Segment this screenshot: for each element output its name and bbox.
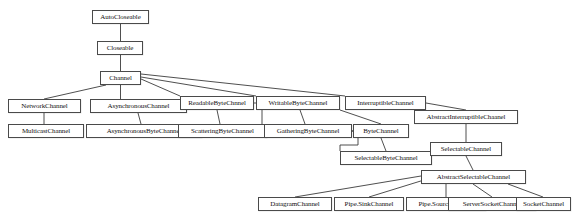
class-node-pipe_sink_channel[interactable]: Pipe.SinkChannel (334, 197, 404, 211)
class-node-label: InterruptibleChannel (357, 100, 413, 107)
edge-abstract_selectable_channel-to-server_socket_channel (473, 184, 492, 197)
class-node-abstract_interruptible[interactable]: AbstractInterruptibleChaanel (414, 110, 518, 124)
class-node-label: SocketChannel (523, 201, 564, 208)
class-node-socket_channel[interactable]: SocketChannel (516, 197, 571, 211)
class-node-label: AsynchronousByteChannel (107, 128, 182, 135)
class-node-label: AbstractInterruptibleChaanel (427, 114, 506, 121)
class-hierarchy-diagram: AutoCloseableCloseableChannelNetworkChan… (0, 0, 574, 224)
class-node-multicast_channel[interactable]: MulticastChannel (8, 124, 84, 138)
edge-writable_byte_channel-to-gathering_byte_channel (300, 110, 305, 124)
class-node-channel[interactable]: Channel (100, 71, 141, 85)
class-node-label: ByteChannel (363, 128, 398, 135)
class-node-label: ServerSocketChannel (463, 201, 522, 208)
class-node-network_channel[interactable]: NetworkChannel (8, 99, 81, 113)
edge-readable_byte_channel-to-scattering_byte_channel (217, 110, 220, 124)
class-node-label: NetworkChannel (21, 103, 67, 110)
class-node-datagram_channel[interactable]: DatagramChannel (258, 197, 332, 211)
class-node-writable_byte_channel[interactable]: WritableByteChannel (256, 96, 340, 110)
class-node-label: DatagramChannel (270, 201, 319, 208)
class-node-label: SelectableChannel (441, 146, 491, 153)
class-node-closeable[interactable]: Closeable (97, 41, 143, 55)
edge-writable_byte_channel-to-byte_channel (340, 110, 381, 124)
class-node-label: AbstractSelectableChannel (437, 174, 510, 181)
class-node-selectable_byte_channel[interactable]: SelectableByteChannel (340, 151, 432, 165)
class-node-interruptible_channel[interactable]: InterruptibleChannel (345, 96, 426, 110)
class-node-label: Closeable (107, 45, 134, 52)
class-node-auto_closeable[interactable]: AutoCloseable (92, 10, 149, 24)
class-node-label: Pipe.SinkChannel (345, 201, 394, 208)
edge-abstract_selectable_channel-to-socket_channel (508, 184, 543, 197)
class-node-label: AutoCloseable (100, 14, 140, 21)
class-node-label: WritableByteChannel (269, 100, 328, 107)
edge-channel-to-network_channel (44, 85, 106, 99)
class-node-scattering_byte_channel[interactable]: ScatteringByteChannel (178, 124, 267, 138)
edge-asynchronous_channel-to-asynchronous_byte_channel (138, 113, 141, 124)
class-node-abstract_selectable_channel[interactable]: AbstractSelectableChannel (421, 170, 526, 184)
edge-channel-to-readable_byte_channel (141, 79, 180, 96)
edge-interruptible_channel-to-abstract_interruptible (426, 103, 466, 110)
class-node-label: Channel (109, 75, 132, 82)
edge-abstract_selectable_channel-to-pipe_sink_channel (369, 180, 424, 197)
class-node-label: SelectableByteChannel (354, 155, 417, 162)
edge-byte_channel-to-selectable_byte_channel (381, 138, 386, 151)
class-node-byte_channel[interactable]: ByteChannel (353, 124, 409, 138)
class-node-label: GatheringByteChannel (277, 128, 340, 135)
class-node-asynchronous_channel[interactable]: AsynchronousChannel (90, 99, 187, 113)
class-node-label: AsynchronousChannel (108, 103, 170, 110)
class-node-label: MulticastChannel (22, 128, 70, 135)
class-node-label: ReadableByteChnnel (188, 100, 246, 107)
class-node-selectable_channel[interactable]: SelectableChannel (430, 142, 502, 156)
class-node-readable_byte_channel[interactable]: ReadableByteChnnel (180, 96, 254, 110)
edge-selectable_channel-to-abstract_selectable_channel (466, 156, 473, 170)
class-node-gathering_byte_channel[interactable]: GatheringByteChannel (264, 124, 352, 138)
class-node-label: ScatteringByteChannel (191, 128, 254, 135)
